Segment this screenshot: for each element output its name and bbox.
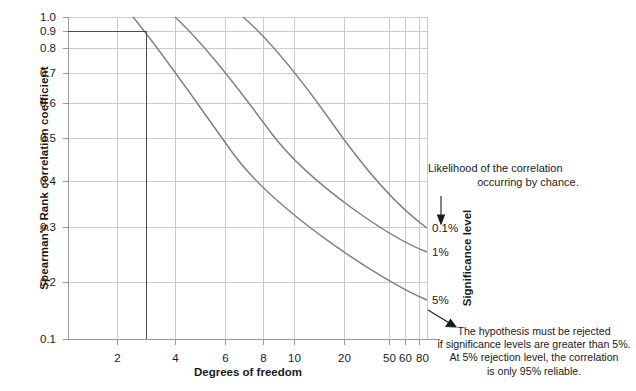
likelihood-annotation: Likelihood of the correlation occurring …: [428, 161, 628, 189]
hypothesis-annotation-line-2: if significance levels are greater than …: [437, 338, 630, 350]
significance-curves: [133, 17, 427, 300]
x-tick-label-2: 2: [98, 352, 138, 364]
y-tick-label-0-2: 0.2: [22, 276, 56, 288]
spearmans-rank-significance-chart: Spearman's Rank correlation coefficient …: [0, 0, 636, 391]
y-tick-label-0-8: 0.8: [22, 42, 56, 54]
y-tick-label-0-4: 0.4: [22, 175, 56, 187]
y-tick-label-0-1: 0.1: [22, 333, 56, 345]
y-gridlines: [68, 18, 427, 340]
y-tick-label-0-3: 0.3: [22, 221, 56, 233]
curve-5-percent: [133, 17, 427, 300]
x-axis-title: Degrees of freedom: [148, 366, 348, 378]
significance-level-axis-title: Significance level: [461, 198, 473, 318]
hypothesis-annotation-line-1: The hypothesis must be rejected: [457, 325, 610, 337]
likelihood-annotation-line-1: Likelihood of the correlation: [428, 161, 628, 175]
likelihood-annotation-line-2: occurring by chance.: [428, 175, 628, 189]
hypothesis-annotation-line-4: is only 95% reliable.: [487, 365, 581, 377]
curve-label-1-percent: 1%: [432, 246, 449, 258]
y-tick-label-1-0: 1.0: [22, 11, 56, 23]
curve-label-5-percent: 5%: [432, 294, 449, 306]
x-tick-label-20: 20: [325, 352, 365, 364]
curve-label-0-1-percent: 0.1%: [432, 222, 458, 234]
y-tick-label-0-7: 0.7: [22, 67, 56, 79]
y-tick-label-0-5: 0.5: [22, 132, 56, 144]
hypothesis-annotation: The hypothesis must be rejected if signi…: [434, 325, 634, 378]
x-tick-label-10: 10: [275, 352, 315, 364]
likelihood-arrow: [438, 196, 445, 224]
x-tick-label-6: 6: [206, 352, 246, 364]
y-axis-ticks: [63, 18, 68, 340]
x-tick-label-4: 4: [156, 352, 196, 364]
y-tick-label-0-6: 0.6: [22, 97, 56, 109]
y-tick-label-0-9: 0.9: [22, 25, 56, 37]
reference-lines: [68, 31, 147, 339]
hypothesis-annotation-line-3: At 5% rejection level, the correlation: [450, 351, 619, 363]
